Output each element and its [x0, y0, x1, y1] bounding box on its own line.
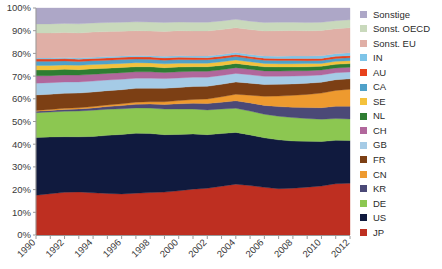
legend-item-ch[interactable]: CH: [360, 123, 442, 138]
legend-swatch-icon: [360, 25, 367, 32]
y-tick-label: 100%: [7, 2, 32, 13]
legend-swatch-icon: [360, 171, 367, 178]
x-tick-label: 1992: [43, 237, 66, 260]
legend-swatch-icon: [360, 229, 367, 236]
legend-item-label: FR: [373, 155, 386, 165]
legend-swatch-icon: [360, 84, 367, 91]
legend-item-sonst-eu[interactable]: Sonst. EU: [360, 36, 442, 51]
legend-item-au[interactable]: AU: [360, 65, 442, 80]
x-tick-label: 2004: [215, 237, 238, 260]
y-tick-label: 30%: [12, 161, 32, 172]
legend-item-label: IN: [373, 53, 383, 63]
legend-item-se[interactable]: SE: [360, 94, 442, 109]
chart-plot-svg: 0%10%20%30%40%50%60%70%80%90%100%1990199…: [0, 0, 356, 269]
legend-item-label: Sonst. EU: [373, 39, 416, 49]
legend-item-de[interactable]: DE: [360, 196, 442, 211]
x-tick-label: 1998: [129, 237, 152, 260]
x-tick-label: 2010: [300, 237, 323, 260]
legend-item-kr[interactable]: KR: [360, 182, 442, 197]
y-tick-label: 50%: [12, 116, 32, 127]
legend-item-label: CN: [373, 170, 387, 180]
legend-swatch-icon: [360, 156, 367, 163]
legend-swatch-icon: [360, 185, 367, 192]
legend-swatch-icon: [360, 127, 367, 134]
y-tick-label: 80%: [12, 48, 32, 59]
y-tick-label: 90%: [12, 25, 32, 36]
legend-item-cn[interactable]: CN: [360, 167, 442, 182]
x-tick-label: 1994: [72, 237, 95, 260]
legend-swatch-icon: [360, 54, 367, 61]
y-tick-label: 40%: [12, 139, 32, 150]
y-tick-label: 10%: [12, 207, 32, 218]
legend-swatch-icon: [360, 69, 367, 76]
legend-swatch-icon: [360, 142, 367, 149]
legend-item-label: SE: [373, 97, 386, 107]
legend-swatch-icon: [360, 214, 367, 221]
legend-item-gb[interactable]: GB: [360, 138, 442, 153]
legend-swatch-icon: [360, 200, 367, 207]
x-tick-label: 2006: [243, 237, 266, 260]
legend-item-us[interactable]: US: [360, 211, 442, 226]
x-tick-label: 1996: [100, 237, 123, 260]
chart-screenshot: 0%10%20%30%40%50%60%70%80%90%100%1990199…: [0, 0, 442, 269]
x-tick-label: 2000: [157, 237, 180, 260]
legend-item-label: DE: [373, 199, 386, 209]
legend-item-label: NL: [373, 111, 385, 121]
legend-item-label: CA: [373, 82, 386, 92]
legend-swatch-icon: [360, 113, 367, 120]
legend-swatch-icon: [360, 98, 367, 105]
legend-item-label: AU: [373, 68, 386, 78]
legend-item-nl[interactable]: NL: [360, 109, 442, 124]
legend-item-sonstige[interactable]: Sonstige: [360, 7, 442, 22]
legend-item-label: CH: [373, 126, 387, 136]
stacked-area-chart: 0%10%20%30%40%50%60%70%80%90%100%1990199…: [0, 0, 356, 269]
legend-item-label: KR: [373, 184, 386, 194]
legend-item-label: Sonst. OECD: [373, 24, 430, 34]
legend-item-sonst-oecd[interactable]: Sonst. OECD: [360, 22, 442, 37]
y-tick-label: 60%: [12, 93, 32, 104]
x-tick-label: 2008: [272, 237, 295, 260]
legend-item-jp[interactable]: JP: [360, 225, 442, 240]
legend-item-label: US: [373, 213, 386, 223]
legend-item-label: GB: [373, 140, 387, 150]
legend-item-in[interactable]: IN: [360, 51, 442, 66]
y-tick-label: 70%: [12, 71, 32, 82]
legend-item-ca[interactable]: CA: [360, 80, 442, 95]
legend-swatch-icon: [360, 40, 367, 47]
area-band-us: [36, 132, 350, 195]
legend-item-label: JP: [373, 228, 384, 238]
x-tick-label: 2002: [186, 237, 209, 260]
y-tick-label: 20%: [12, 184, 32, 195]
legend-swatch-icon: [360, 11, 367, 18]
x-tick-label: 2012: [329, 237, 352, 260]
chart-legend: SonstigeSonst. OECDSonst. EUINAUCASENLCH…: [360, 7, 442, 240]
area-band-sonstige: [36, 8, 350, 24]
legend-item-label: Sonstige: [373, 10, 410, 20]
legend-item-fr[interactable]: FR: [360, 152, 442, 167]
